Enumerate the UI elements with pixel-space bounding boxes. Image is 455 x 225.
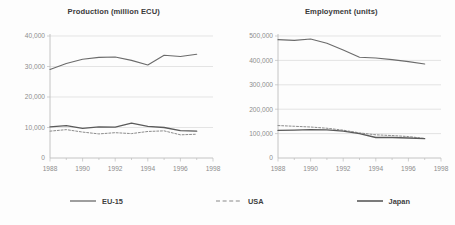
production-line-chart: 010,00020,00030,00040,000198819901992199…: [0, 20, 227, 182]
svg-text:0: 0: [41, 154, 45, 161]
chart-panel-employment: Employment (units) 0100,000200,000300,00…: [228, 0, 455, 182]
svg-text:1994: 1994: [140, 165, 155, 172]
svg-text:100,000: 100,000: [249, 130, 273, 137]
legend-line-icon-eu-15: [70, 197, 96, 205]
svg-text:1998: 1998: [433, 165, 448, 172]
svg-text:300,000: 300,000: [249, 81, 273, 88]
svg-text:200,000: 200,000: [249, 106, 273, 113]
svg-text:1988: 1988: [270, 165, 285, 172]
chart-title-production: Production (million ECU): [0, 7, 228, 16]
series-line-japan: [278, 130, 425, 139]
legend-line-icon-usa: [216, 197, 242, 205]
svg-text:400,000: 400,000: [249, 57, 273, 64]
chart-panels: Production (million ECU) 010,00020,00030…: [0, 0, 455, 182]
svg-text:500,000: 500,000: [249, 32, 273, 39]
legend-item-japan[interactable]: Japan: [357, 197, 410, 206]
chart-panel-production: Production (million ECU) 010,00020,00030…: [0, 0, 228, 182]
employment-line-chart: 0100,000200,000300,000400,000500,0001988…: [228, 20, 455, 182]
svg-text:30,000: 30,000: [25, 63, 46, 70]
legend-label-usa: USA: [248, 197, 264, 206]
svg-text:40,000: 40,000: [25, 32, 46, 39]
svg-text:1992: 1992: [108, 165, 123, 172]
svg-text:1994: 1994: [368, 165, 383, 172]
figure-root: Production (million ECU) 010,00020,00030…: [0, 0, 455, 225]
svg-text:1990: 1990: [303, 165, 318, 172]
legend-label-eu-15: EU-15: [102, 197, 123, 206]
svg-text:1996: 1996: [173, 165, 188, 172]
svg-text:1998: 1998: [206, 165, 221, 172]
series-line-usa: [50, 130, 197, 135]
plot-area-employment: 0100,000200,000300,000400,000500,0001988…: [228, 20, 455, 182]
legend-item-usa[interactable]: USA: [216, 197, 264, 206]
legend-label-japan: Japan: [389, 197, 410, 206]
svg-text:20,000: 20,000: [25, 93, 46, 100]
svg-text:1990: 1990: [75, 165, 90, 172]
svg-text:1996: 1996: [401, 165, 416, 172]
svg-text:10,000: 10,000: [25, 124, 46, 131]
svg-text:1992: 1992: [335, 165, 350, 172]
chart-title-employment: Employment (units): [228, 7, 455, 16]
series-line-eu-15: [50, 54, 197, 69]
svg-text:1988: 1988: [43, 165, 58, 172]
legend-line-icon-japan: [357, 197, 383, 205]
svg-text:0: 0: [269, 154, 273, 161]
plot-area-production: 010,00020,00030,00040,000198819901992199…: [0, 20, 227, 182]
chart-legend: EU-15 USA Japan: [0, 188, 455, 214]
legend-item-eu-15[interactable]: EU-15: [70, 197, 123, 206]
